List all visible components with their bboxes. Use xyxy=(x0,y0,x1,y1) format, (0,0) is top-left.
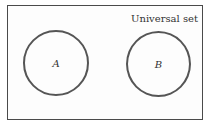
universal-set-label: Universal set xyxy=(131,13,198,24)
set-b-circle: B xyxy=(126,31,191,97)
set-a-label: A xyxy=(52,58,59,69)
set-a-circle: A xyxy=(23,30,89,96)
set-b-label: B xyxy=(155,59,162,70)
